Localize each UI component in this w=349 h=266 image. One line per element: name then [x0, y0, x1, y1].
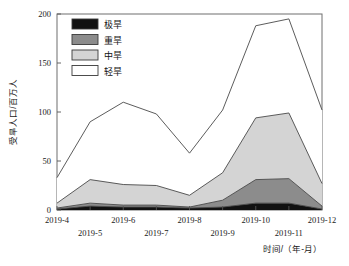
- x-tick-label: 2019-12: [308, 215, 336, 225]
- x-tick-label: 2019-11: [275, 228, 303, 238]
- y-tick-label: 0: [47, 205, 51, 215]
- x-tick-label: 2019-4: [45, 215, 70, 225]
- legend-swatch-极旱: [72, 19, 98, 29]
- drought-population-area-chart: 0501001502002019-42019-52019-62019-72019…: [0, 0, 349, 266]
- legend-swatch-中旱: [72, 50, 98, 60]
- legend-label-重旱: 重旱: [104, 35, 122, 46]
- y-tick-label: 200: [38, 9, 51, 19]
- x-tick-label: 2019-5: [78, 228, 102, 238]
- y-tick-label: 100: [38, 107, 51, 117]
- legend-swatch-重旱: [72, 35, 98, 45]
- legend-swatch-轻旱: [72, 66, 98, 76]
- y-tick-label: 50: [43, 156, 52, 166]
- y-axis-title: 受旱人口/百万人: [8, 79, 18, 144]
- x-axis-title: 时间/（年-月）: [263, 244, 322, 254]
- x-tick-label: 2019-9: [211, 228, 235, 238]
- legend-label-轻旱: 轻旱: [104, 66, 122, 77]
- x-tick-label: 2019-6: [111, 215, 135, 225]
- x-tick-label: 2019-8: [177, 215, 201, 225]
- y-tick-label: 150: [38, 58, 51, 68]
- legend-label-中旱: 中旱: [104, 50, 122, 61]
- x-tick-label: 2019-7: [144, 228, 168, 238]
- chart-canvas: 0501001502002019-42019-52019-62019-72019…: [0, 0, 349, 266]
- legend-label-极旱: 极旱: [104, 19, 122, 30]
- x-tick-label: 2019-10: [242, 215, 270, 225]
